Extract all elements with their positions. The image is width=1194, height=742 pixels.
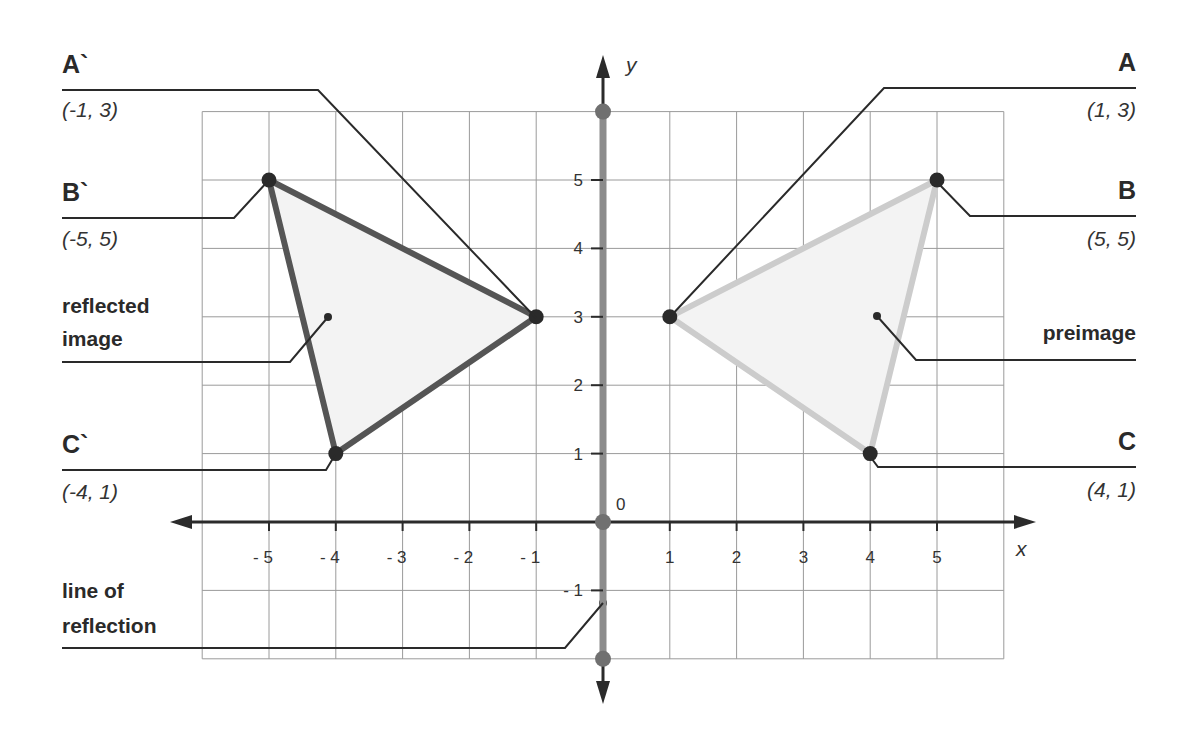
x-tick-label: 3 [799,548,808,567]
reflection-line-point [595,651,611,667]
coord-b-prime: (-5, 5) [62,227,118,250]
vertex-point [930,173,945,188]
coord-b: (5, 5) [1087,227,1136,250]
label-line-of-reflection-2: reflection [62,614,157,637]
y-tick-label: 1 [574,445,583,464]
x-axis-right-arrow-icon [1014,515,1036,529]
x-axis-label: x [1015,537,1028,560]
x-tick-label: 1 [665,548,674,567]
label-b: B [1118,176,1136,204]
reflection-diagram: - 5- 4- 3- 2- 112345- 1123450xyA`(-1, 3)… [0,0,1194,742]
x-tick-label: 5 [932,548,941,567]
y-axis-up-arrow-icon [596,55,610,78]
axes [170,55,1036,704]
leader-c [869,455,1136,467]
x-tick-label: - 2 [453,548,473,567]
label-c-prime: C` [62,430,88,458]
coord-c-prime: (-4, 1) [62,480,118,503]
label-c: C [1118,427,1136,455]
x-tick-label: 2 [732,548,741,567]
label-line-of-reflection-1: line of [62,579,125,602]
x-tick-label: - 3 [387,548,407,567]
x-tick-label: 4 [865,548,874,567]
leader-lines [62,88,1136,648]
reflection-line-point [595,104,611,120]
y-tick-label: - 1 [563,581,583,600]
coord-c: (4, 1) [1087,478,1136,501]
label-reflected-line1: reflected [62,294,150,317]
labels: - 5- 4- 3- 2- 112345- 1123450xyA`(-1, 3)… [62,48,1136,637]
label-b-prime: B` [62,178,88,206]
x-tick-label: - 4 [320,548,340,567]
x-tick-label: - 5 [253,548,273,567]
reflection-line-point [595,514,611,530]
vertex-point [328,446,343,461]
leader-b-prime [62,181,268,218]
y-axis-label: y [624,53,638,76]
y-tick-label: 2 [574,376,583,395]
label-preimage: preimage [1043,321,1136,344]
label-reflected-line2: image [62,327,123,350]
y-tick-label: 4 [574,239,583,258]
y-axis-down-arrow-icon [596,681,610,704]
leader-c-prime [62,455,335,470]
label-a-prime: A` [62,50,88,78]
label-a: A [1118,48,1136,76]
x-axis-left-arrow-icon [170,515,192,529]
origin-label: 0 [616,495,625,514]
leader-b [936,181,1136,216]
x-tick-label: - 1 [520,548,540,567]
coord-a: (1, 3) [1087,98,1136,121]
coord-a-prime: (-1, 3) [62,98,118,121]
y-tick-label: 5 [574,171,583,190]
vertex-point [863,446,878,461]
y-tick-label: 3 [574,308,583,327]
